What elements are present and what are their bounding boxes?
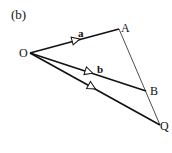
point-label-B: B [150,85,158,97]
figure-label: (b) [11,8,26,21]
vector-label-a: a [78,28,84,39]
point-label-A: A [121,22,130,34]
line-AQ [119,29,160,125]
vector-label-b: b [97,64,103,75]
arrow-icon-OB [84,67,94,77]
point-label-O: O [19,47,28,59]
vector-diagram [0,0,172,153]
point-label-Q: Q [160,120,169,132]
arrow-icon-OQ [87,82,98,93]
